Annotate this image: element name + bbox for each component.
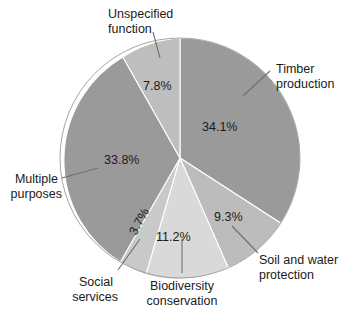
pie-value-label-soil-and-water-protection: 9.3% — [214, 210, 243, 224]
pie-category-label-soil-and-water-protection-line2: protection — [259, 268, 314, 282]
pie-category-label-unspecified-function-line2: function — [108, 22, 152, 36]
pie-category-label-timber-production-line2: production — [276, 77, 334, 91]
pie-category-label-unspecified-function-line1: Unspecified — [108, 7, 173, 21]
pie-category-label-timber-production-line1: Timber — [276, 62, 314, 76]
pie-category-label-multiple-purposes-line2: purposes — [11, 187, 62, 201]
pie-category-label-social-services-line2: services — [72, 290, 118, 304]
pie-category-label-social-services-line1: Social — [79, 275, 113, 289]
pie-category-label-biodiversity-conservation-line2: conservation — [147, 294, 218, 308]
pie-category-label-biodiversity-conservation-line1: Biodiversity — [150, 279, 215, 293]
pie-category-label-soil-and-water-protection-line1: Soil and water — [259, 253, 338, 267]
pie-value-label-multiple-purposes: 33.8% — [104, 153, 139, 167]
pie-chart-figure: 34.1% 9.3% 11.2% 3.7% 33.8% 7.8% Timber … — [0, 0, 349, 326]
pie-value-label-unspecified-function: 7.8% — [143, 79, 172, 93]
pie-chart-svg: 34.1% 9.3% 11.2% 3.7% 33.8% 7.8% Timber … — [0, 0, 349, 326]
pie-value-label-biodiversity-conservation: 11.2% — [156, 230, 191, 244]
pie-category-label-multiple-purposes-line1: Multiple — [15, 172, 58, 186]
pie-value-label-timber-production: 34.1% — [202, 120, 237, 134]
